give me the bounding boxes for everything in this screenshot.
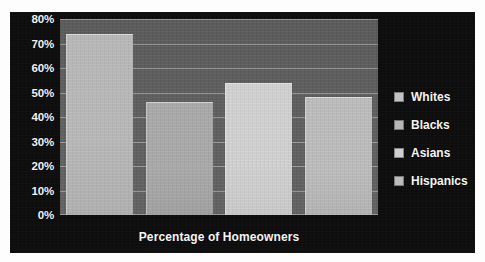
bar-whites (66, 34, 133, 215)
legend-label-asians: Asians (411, 146, 450, 160)
legend-label-hispanics: Hispanics (411, 174, 468, 188)
y-axis-tick-20: 20% (32, 160, 54, 172)
bar-asians (225, 83, 292, 215)
bar-hispanics (305, 97, 372, 215)
legend-item-blacks: Blacks (394, 113, 468, 137)
y-axis-tick-0: 0% (38, 209, 54, 221)
legend-swatch-icon (394, 120, 404, 130)
legend-label-whites: Whites (411, 90, 450, 104)
legend-label-blacks: Blacks (411, 118, 450, 132)
y-axis-tick-70: 70% (32, 38, 54, 50)
legend-item-whites: Whites (394, 85, 468, 109)
gridline-80 (60, 19, 378, 20)
bar-chart: 80% 70% 60% 50% 40% 30% 20% 10% 0% (10, 12, 475, 253)
y-axis-tick-60: 60% (32, 62, 54, 74)
y-axis-tick-10: 10% (32, 185, 54, 197)
plot-area (60, 19, 378, 215)
x-axis-title: Percentage of Homeowners (60, 230, 378, 244)
chart-legend: Whites Blacks Asians Hispanics (394, 85, 468, 197)
y-axis-tick-30: 30% (32, 136, 54, 148)
y-axis-tick-40: 40% (32, 111, 54, 123)
legend-item-asians: Asians (394, 141, 468, 165)
y-axis-tick-80: 80% (32, 13, 54, 25)
y-axis-tick-50: 50% (32, 87, 54, 99)
legend-swatch-icon (394, 176, 404, 186)
legend-swatch-icon (394, 148, 404, 158)
legend-swatch-icon (394, 92, 404, 102)
y-axis: 80% 70% 60% 50% 40% 30% 20% 10% 0% (10, 12, 57, 253)
bar-blacks (146, 102, 213, 215)
chart-screenshot: 80% 70% 60% 50% 40% 30% 20% 10% 0% (0, 0, 485, 262)
legend-item-hispanics: Hispanics (394, 169, 468, 193)
